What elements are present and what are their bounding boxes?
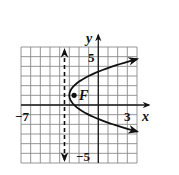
y-min-tick-label: −5 bbox=[76, 149, 90, 164]
x-min-tick-label: −7 bbox=[15, 109, 29, 124]
y-axis-label: y bbox=[84, 31, 93, 46]
x-axis-label: x bbox=[141, 109, 149, 124]
x-max-tick-label: 3 bbox=[124, 109, 131, 124]
focus-label: F bbox=[78, 88, 89, 103]
y-max-tick-label: 5 bbox=[88, 50, 95, 65]
focus-point bbox=[72, 93, 77, 98]
parabola-graph: F −7 3 5 −5 x y bbox=[0, 0, 179, 175]
